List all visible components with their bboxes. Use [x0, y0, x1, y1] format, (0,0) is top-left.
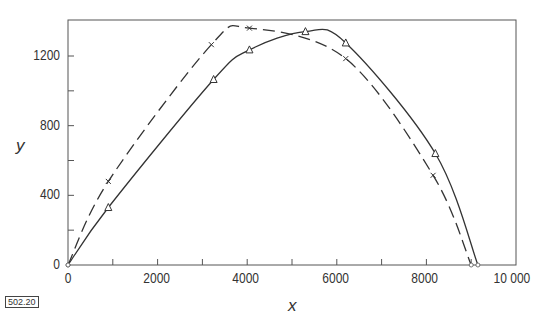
axis-ticks [68, 56, 471, 265]
x-tick-label: 2000 [143, 269, 170, 286]
x-axis-title: x [288, 296, 297, 316]
x-tick-label: 4000 [233, 269, 260, 286]
data-markers [66, 26, 480, 267]
y-tick-label: 1200 [20, 46, 60, 63]
chart-canvas [0, 0, 545, 325]
y-tick-label: 400 [20, 185, 60, 202]
x-tick-label: 0 [64, 269, 71, 286]
y-axis-title: y [16, 136, 25, 156]
y-tick-label: 800 [20, 116, 60, 133]
data-curves [68, 26, 478, 265]
y-tick-label: 0 [20, 255, 60, 272]
figure-id-label: 502.20 [5, 296, 39, 308]
plot-frame [68, 20, 516, 265]
x-tick-label: 6000 [322, 269, 349, 286]
x-tick-label: 8000 [412, 269, 439, 286]
x-tick-label: 10 000 [494, 269, 531, 286]
